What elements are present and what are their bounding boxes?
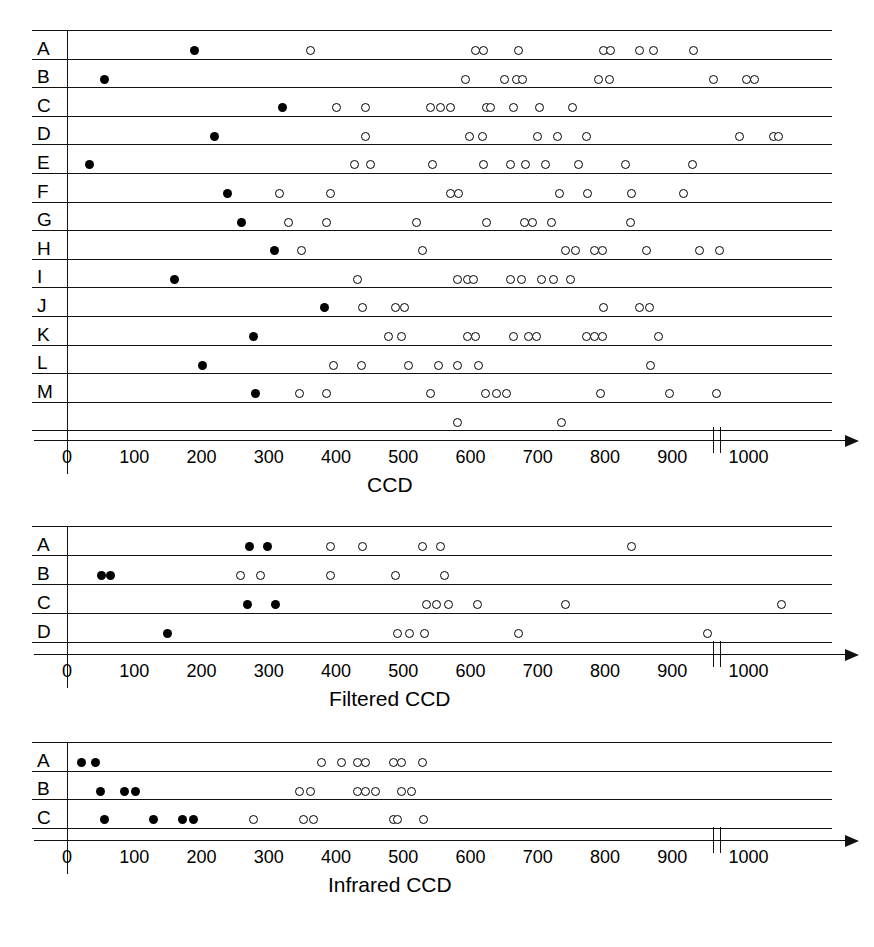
data-point-open xyxy=(412,218,421,227)
data-point-open xyxy=(471,332,480,341)
data-point-open xyxy=(432,600,441,609)
data-point-filled xyxy=(85,160,94,169)
data-point-open xyxy=(521,160,530,169)
data-point-open xyxy=(350,160,359,169)
data-point-open xyxy=(553,132,562,141)
data-point-open xyxy=(482,218,491,227)
data-point-open xyxy=(500,75,509,84)
x-axis-arrow-icon xyxy=(845,649,859,661)
row-separator-line xyxy=(32,173,832,174)
data-point-open xyxy=(329,361,338,370)
x-axis-tick xyxy=(67,646,68,662)
row-separator-line xyxy=(32,202,832,203)
data-point-open xyxy=(236,571,245,580)
data-point-open xyxy=(506,160,515,169)
row-label-e: E xyxy=(37,153,50,172)
data-point-open xyxy=(322,389,331,398)
x-axis-tick-label: 0 xyxy=(37,448,97,466)
data-point-open xyxy=(436,103,445,112)
row-label-c: C xyxy=(37,593,51,612)
data-point-open xyxy=(582,132,591,141)
data-point-open xyxy=(371,787,380,796)
data-point-open xyxy=(426,103,435,112)
x-axis-title: Infrared CCD xyxy=(190,874,590,895)
data-point-open xyxy=(486,103,495,112)
data-point-open xyxy=(774,132,783,141)
data-point-open xyxy=(453,418,462,427)
data-point-open xyxy=(358,542,367,551)
x-axis-tick-label: 500 xyxy=(373,448,433,466)
data-point-open xyxy=(397,787,406,796)
data-point-filled xyxy=(320,303,329,312)
data-point-open xyxy=(626,218,635,227)
data-point-open xyxy=(357,361,366,370)
data-point-filled xyxy=(149,815,158,824)
row-separator-line xyxy=(32,316,832,317)
axis-break-mark xyxy=(713,641,714,667)
data-point-open xyxy=(469,275,478,284)
data-point-filled xyxy=(223,189,232,198)
data-point-filled xyxy=(190,46,199,55)
row-separator-line xyxy=(32,526,832,527)
data-point-open xyxy=(528,218,537,227)
data-point-open xyxy=(317,758,326,767)
x-axis-tick-label: 700 xyxy=(508,848,568,866)
data-point-open xyxy=(596,389,605,398)
x-axis-tick-label: 900 xyxy=(642,848,702,866)
data-point-open xyxy=(654,332,663,341)
data-point-open xyxy=(679,189,688,198)
x-axis-tick-label: 300 xyxy=(239,848,299,866)
x-axis-tick xyxy=(67,832,68,848)
row-label-j: J xyxy=(37,296,47,315)
data-point-filled xyxy=(237,218,246,227)
data-point-open xyxy=(627,542,636,551)
x-axis-line xyxy=(34,840,845,841)
row-label-c: C xyxy=(37,808,51,827)
data-point-open xyxy=(479,46,488,55)
data-point-open xyxy=(541,160,550,169)
row-label-l: L xyxy=(37,353,48,372)
data-point-open xyxy=(695,246,704,255)
data-point-open xyxy=(426,389,435,398)
data-point-open xyxy=(404,361,413,370)
data-point-open xyxy=(444,600,453,609)
data-point-filled xyxy=(77,758,86,767)
data-point-open xyxy=(481,389,490,398)
row-separator-line xyxy=(32,259,832,260)
data-point-open xyxy=(777,600,786,609)
data-point-open xyxy=(249,815,258,824)
value-axis-origin-line xyxy=(67,30,68,474)
data-point-open xyxy=(361,758,370,767)
data-point-open xyxy=(555,189,564,198)
data-point-open xyxy=(712,389,721,398)
data-point-open xyxy=(645,303,654,312)
data-point-filled xyxy=(263,542,272,551)
data-point-open xyxy=(474,361,483,370)
data-point-filled xyxy=(271,600,280,609)
x-axis-title: CCD xyxy=(190,474,590,495)
x-axis-arrow-icon xyxy=(845,835,859,847)
data-point-open xyxy=(750,75,759,84)
data-point-open xyxy=(533,132,542,141)
x-axis-tick-label: 700 xyxy=(508,662,568,680)
x-axis-tick-label: 600 xyxy=(441,448,501,466)
data-point-open xyxy=(453,275,462,284)
data-point-open xyxy=(332,103,341,112)
data-point-filled xyxy=(170,275,179,284)
row-separator-line xyxy=(32,771,832,772)
x-axis-tick-label: 500 xyxy=(373,848,433,866)
data-point-open xyxy=(299,815,308,824)
data-point-open xyxy=(571,246,580,255)
data-point-open xyxy=(275,189,284,198)
row-label-g: G xyxy=(37,210,52,229)
data-point-open xyxy=(627,189,636,198)
data-point-open xyxy=(428,160,437,169)
x-axis-title: Filtered CCD xyxy=(190,688,590,709)
data-point-filled xyxy=(131,787,140,796)
data-point-filled xyxy=(189,815,198,824)
row-label-a: A xyxy=(37,751,50,770)
data-point-open xyxy=(532,332,541,341)
data-point-filled xyxy=(106,571,115,580)
row-separator-line xyxy=(32,555,832,556)
data-point-open xyxy=(453,361,462,370)
